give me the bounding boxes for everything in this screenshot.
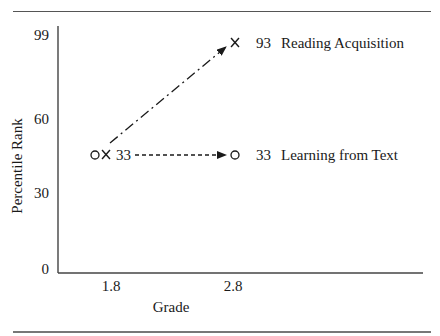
x-marker-end (231, 38, 239, 47)
reading-acquisition-line (110, 47, 226, 143)
y-tick-99: 99 (34, 27, 49, 43)
x-tick-1-8: 1.8 (102, 278, 121, 294)
reading-end-value: 93 (256, 35, 271, 51)
x-marker-start (102, 150, 110, 159)
line-chart: 99 60 30 0 Percentile Rank 1.8 2.8 Grade… (0, 0, 440, 336)
learning-end-value: 33 (256, 147, 271, 163)
y-tick-60: 60 (34, 111, 49, 127)
x-axis-label: Grade (153, 299, 190, 315)
circle-marker-start (91, 151, 99, 159)
x-tick-2-8: 2.8 (224, 278, 243, 294)
reading-series-label: Reading Acquisition (281, 35, 404, 51)
learning-series-label: Learning from Text (281, 147, 399, 163)
y-tick-30: 30 (34, 185, 49, 201)
y-tick-0: 0 (42, 261, 50, 277)
circle-marker-end (231, 151, 239, 159)
y-axis-label: Percentile Rank (9, 118, 25, 214)
start-value-label: 33 (116, 147, 131, 163)
